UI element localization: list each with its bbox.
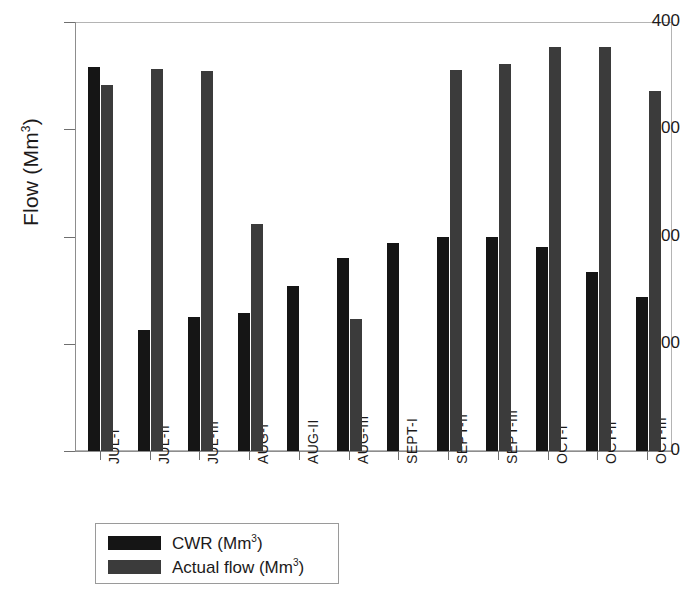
bar-actual-flow [450,70,462,451]
bar-actual-flow [151,69,163,451]
legend-label-actual-flow: Actual flow (Mm3) [172,557,304,578]
bar-actual-flow [499,64,511,451]
legend-swatch-actual-flow-icon [108,560,161,574]
bar-actual-flow [201,71,213,451]
bar-actual-flow [599,47,611,451]
bar-actual-flow [251,224,263,451]
legend-item-cwr: CWR (Mm3) [108,531,338,555]
bar-actual-flow [549,47,561,451]
bar-series-layer [0,0,680,597]
legend-label-actual-flow-base: Actual flow (Mm [172,557,293,576]
legend-swatch-cwr-icon [108,536,161,550]
bar-actual-flow [101,85,113,451]
bar-cwr [536,247,548,451]
legend-label-cwr: CWR (Mm3) [172,533,263,554]
legend-label-actual-flow-tail: ) [298,557,304,576]
legend: CWR (Mm3) Actual flow (Mm3) [95,523,339,584]
bar-cwr [188,317,200,451]
bar-actual-flow [649,91,661,451]
bar-cwr [636,297,648,451]
legend-label-cwr-base: CWR (Mm [172,533,251,552]
bar-cwr [486,237,498,452]
bar-cwr [287,286,299,451]
bar-cwr [238,313,250,451]
bar-cwr [337,258,349,451]
bar-chart: Flow (Mm3) 0100200300400 JUL-IJUL-IIJUL-… [0,0,680,597]
bar-cwr [437,237,449,452]
bar-cwr [387,243,399,451]
bar-actual-flow [350,319,362,451]
bar-cwr [138,330,150,451]
bar-cwr [88,67,100,451]
bar-cwr [586,272,598,451]
legend-label-cwr-tail: ) [257,533,263,552]
legend-item-actual-flow: Actual flow (Mm3) [108,555,338,579]
